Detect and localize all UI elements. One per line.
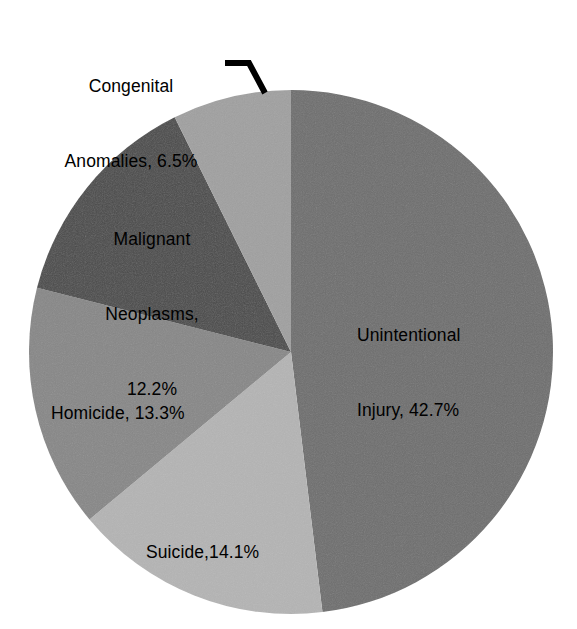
slice-label-line: Malignant — [87, 227, 217, 252]
slice-label-line: 12.2% — [87, 377, 217, 402]
leader-line-group — [225, 63, 265, 93]
slice-label-suicide: Suicide,14.1% — [146, 490, 346, 615]
congenital-anomalies-leader-line — [225, 63, 265, 93]
slice-label-line: Unintentional — [357, 323, 542, 348]
slice-label-line: Injury, 42.7% — [357, 398, 542, 423]
pie-chart: Unintentional Injury, 42.7% Suicide,14.1… — [0, 0, 577, 629]
slice-label-line: Congenital — [36, 74, 226, 99]
slice-label-congenital-anomalies: Congenital Anomalies, 6.5% — [36, 24, 226, 224]
slice-label-line: Suicide,14.1% — [146, 540, 346, 565]
slice-label-unintentional-injury: Unintentional Injury, 42.7% — [357, 273, 542, 473]
slice-label-line: Neoplasms, — [87, 302, 217, 327]
slice-label-line: Anomalies, 6.5% — [36, 149, 226, 174]
